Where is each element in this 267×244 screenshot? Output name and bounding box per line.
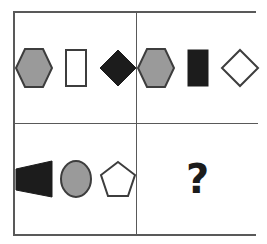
matrix-cell-bottom-right[interactable]: ?: [137, 124, 258, 235]
gray-hexagon-shape: [137, 46, 174, 90]
black-rectangle-shape: [179, 46, 216, 90]
matrix-grid: ?: [13, 11, 256, 236]
white-rectangle-shape: [57, 46, 94, 90]
matrix-cell-top-left[interactable]: [15, 13, 137, 124]
question-mark: ?: [186, 159, 209, 199]
black-diamond-shape: [99, 46, 136, 90]
shape-row-top-left: [15, 13, 136, 123]
white-diamond-shape: [221, 46, 258, 90]
puzzle-root: ?: [0, 0, 267, 244]
shape-row-top-right: [137, 13, 258, 123]
gray-ellipse-shape: [57, 157, 94, 201]
matrix-cell-top-right[interactable]: [137, 13, 258, 124]
matrix-cell-bottom-left[interactable]: [15, 124, 137, 235]
white-pentagon-shape: [99, 157, 136, 201]
shape-row-bottom-left: [15, 124, 136, 235]
black-trapezoid-shape: [15, 157, 52, 201]
gray-hexagon-shape: [15, 46, 52, 90]
